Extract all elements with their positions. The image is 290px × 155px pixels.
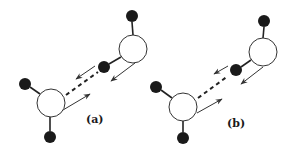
hydrogen-atom — [44, 131, 56, 143]
covalent-bond — [132, 22, 133, 35]
displacement-arrow-icon — [197, 99, 222, 113]
hydrogen-atom — [230, 64, 242, 76]
oxygen-atom — [37, 89, 65, 117]
displacement-arrow-icon — [241, 67, 263, 84]
covalent-bond — [241, 60, 251, 67]
hydrogen-bond-dashed — [198, 76, 228, 98]
hydrogen-atom — [98, 61, 110, 73]
hydrogen-atom — [150, 81, 162, 93]
hydrogen-atom — [177, 132, 189, 144]
hydrogen-atom — [19, 78, 31, 90]
panel-a — [19, 10, 147, 143]
covalent-bond — [161, 90, 172, 98]
panel-a-label: (a) — [86, 114, 104, 125]
covalent-bond — [30, 87, 40, 94]
covalent-bond — [109, 57, 121, 64]
panel-b — [150, 15, 277, 144]
panel-b-label: (b) — [227, 118, 245, 129]
displacement-arrow-icon — [214, 66, 228, 74]
hydrogen-atom — [126, 10, 138, 22]
hydrogen-atom — [258, 15, 270, 27]
oxygen-atom — [169, 93, 197, 121]
figure: (a) (b) — [0, 0, 290, 155]
oxygen-atom — [119, 35, 147, 63]
covalent-bond — [263, 27, 264, 38]
diagram-canvas — [0, 0, 290, 155]
oxygen-atom — [249, 38, 277, 66]
displacement-arrow-icon — [63, 94, 90, 110]
displacement-arrow-icon — [111, 63, 135, 81]
